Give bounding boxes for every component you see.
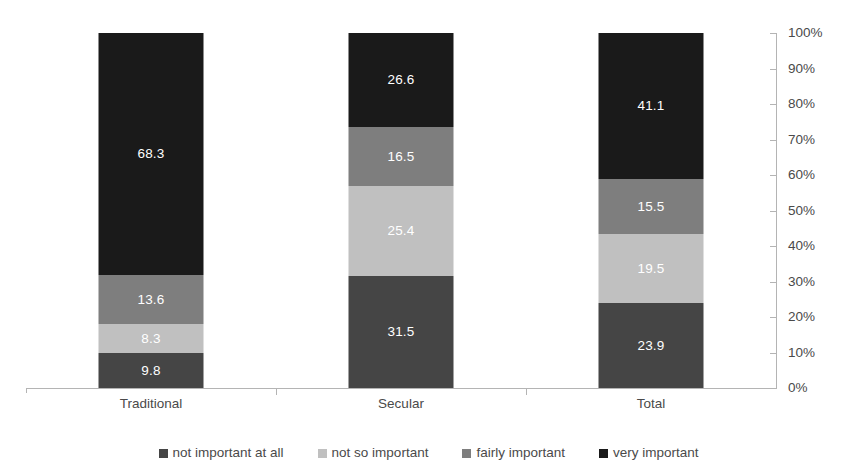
y-axis-tick bbox=[770, 317, 777, 318]
y-axis-tick-label: 50% bbox=[788, 204, 815, 218]
legend-item[interactable]: fairly important bbox=[462, 446, 565, 460]
bar-stack[interactable]: 68.313.68.39.8 bbox=[99, 33, 204, 388]
y-axis-tick-label: 70% bbox=[788, 133, 815, 147]
legend-item-label: very important bbox=[613, 446, 699, 460]
legend-item[interactable]: not so important bbox=[318, 446, 429, 460]
bar-segment[interactable]: 68.3 bbox=[99, 33, 204, 275]
x-axis-category-label: Traditional bbox=[120, 397, 183, 411]
category-band: 26.616.525.431.5 bbox=[276, 33, 526, 388]
legend-item-label: not so important bbox=[332, 446, 429, 460]
bar-segment-value-label: 25.4 bbox=[387, 224, 414, 238]
bar-segment-value-label: 8.3 bbox=[141, 332, 160, 346]
y-axis-tick bbox=[770, 388, 777, 389]
x-axis-line bbox=[26, 388, 776, 389]
legend-swatch-icon bbox=[159, 449, 168, 458]
y-axis-tick bbox=[770, 104, 777, 105]
y-axis-tick-label: 100% bbox=[788, 26, 823, 40]
y-axis-tick bbox=[770, 33, 777, 34]
bar-stack[interactable]: 26.616.525.431.5 bbox=[349, 33, 454, 388]
bar-segment[interactable]: 9.8 bbox=[99, 353, 204, 388]
bar-segment-value-label: 9.8 bbox=[141, 364, 160, 378]
bar-segment-value-label: 26.6 bbox=[387, 73, 414, 87]
legend-item-label: fairly important bbox=[476, 446, 565, 460]
category-band: 41.115.519.523.9 bbox=[526, 33, 776, 388]
bar-segment-value-label: 41.1 bbox=[637, 99, 664, 113]
y-axis-tick-label: 30% bbox=[788, 275, 815, 289]
y-axis-tick-label: 80% bbox=[788, 97, 815, 111]
chart-legend: not important at allnot so importantfair… bbox=[0, 441, 857, 465]
plot-area: 68.313.68.39.826.616.525.431.541.115.519… bbox=[26, 33, 776, 388]
legend-swatch-icon bbox=[462, 449, 471, 458]
bar-segment-value-label: 19.5 bbox=[637, 262, 664, 276]
y-axis-tick bbox=[770, 140, 777, 141]
y-axis-tick-label: 0% bbox=[788, 381, 808, 395]
y-axis-tick-label: 10% bbox=[788, 346, 815, 360]
bar-segment-value-label: 23.9 bbox=[637, 339, 664, 353]
y-axis-tick-label: 90% bbox=[788, 62, 815, 76]
bar-stack[interactable]: 41.115.519.523.9 bbox=[599, 33, 704, 388]
bar-segment-value-label: 68.3 bbox=[137, 147, 164, 161]
legend-swatch-icon bbox=[318, 449, 327, 458]
x-axis-left-cap bbox=[26, 388, 27, 393]
x-axis-category-tick bbox=[526, 389, 527, 395]
bar-segment[interactable]: 8.3 bbox=[99, 324, 204, 353]
y-axis-tick bbox=[770, 353, 777, 354]
bar-segment-value-label: 13.6 bbox=[137, 293, 164, 307]
y-axis-tick-label: 40% bbox=[788, 239, 815, 253]
bar-segment[interactable]: 15.5 bbox=[599, 179, 704, 234]
bar-segment[interactable]: 23.9 bbox=[599, 303, 704, 388]
y-axis-tick bbox=[770, 282, 777, 283]
bar-segment[interactable]: 25.4 bbox=[349, 186, 454, 276]
category-band: 68.313.68.39.8 bbox=[26, 33, 276, 388]
bar-segment-value-label: 16.5 bbox=[387, 150, 414, 164]
y-axis-tick bbox=[770, 211, 777, 212]
bar-segment-value-label: 15.5 bbox=[637, 200, 664, 214]
x-axis-category-label: Secular bbox=[378, 397, 424, 411]
x-axis-category-label: Total bbox=[637, 397, 666, 411]
bar-segment[interactable]: 31.5 bbox=[349, 276, 454, 388]
bar-segment[interactable]: 13.6 bbox=[99, 275, 204, 323]
legend-item[interactable]: not important at all bbox=[159, 446, 284, 460]
bar-segment-value-label: 31.5 bbox=[387, 325, 414, 339]
y-axis-tick bbox=[770, 175, 777, 176]
y-axis-tick bbox=[770, 246, 777, 247]
bar-segment[interactable]: 16.5 bbox=[349, 127, 454, 186]
y-axis-tick bbox=[770, 69, 777, 70]
y-axis-tick-label: 20% bbox=[788, 310, 815, 324]
y-axis-tick-label: 60% bbox=[788, 168, 815, 182]
bar-segment[interactable]: 19.5 bbox=[599, 234, 704, 303]
bar-segment[interactable]: 26.6 bbox=[349, 33, 454, 127]
legend-item[interactable]: very important bbox=[599, 446, 699, 460]
x-axis-category-tick bbox=[276, 389, 277, 395]
bar-segment[interactable]: 41.1 bbox=[599, 33, 704, 179]
legend-item-label: not important at all bbox=[173, 446, 284, 460]
legend-swatch-icon bbox=[599, 449, 608, 458]
stacked-bar-chart: 68.313.68.39.826.616.525.431.541.115.519… bbox=[0, 0, 857, 472]
